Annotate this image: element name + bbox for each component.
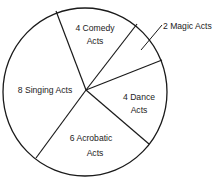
label-magic: 2 Magic Acts <box>163 21 212 31</box>
label-acrobatic-line1: 6 Acrobatic <box>70 133 113 143</box>
label-comedy-line2: Acts <box>87 36 104 46</box>
label-singing: 8 Singing Acts <box>18 85 72 95</box>
label-comedy-line1: 4 Comedy <box>75 23 115 33</box>
label-dance-line1: 4 Dance <box>123 92 155 102</box>
label-acrobatic-line2: Acts <box>87 148 104 158</box>
pie-chart: 4 Comedy Acts 2 Magic Acts 4 Dance Acts … <box>0 0 224 178</box>
label-dance-line2: Acts <box>131 105 148 115</box>
